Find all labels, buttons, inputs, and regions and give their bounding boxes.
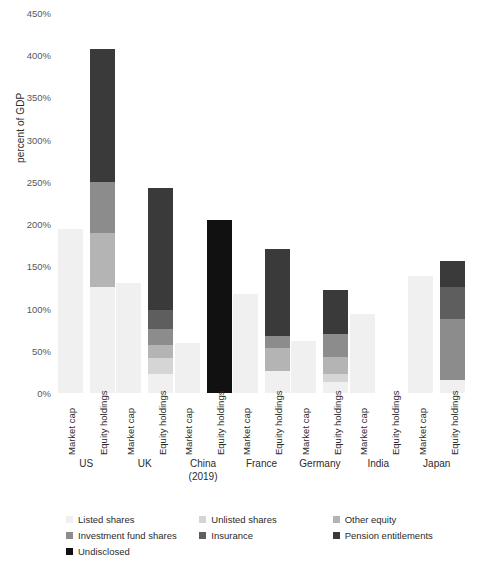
bar-segment[interactable] [90, 233, 115, 288]
y-axis-tick-label: 350% [5, 92, 51, 103]
category-label: Japan [408, 458, 466, 483]
y-axis-tick-label: 150% [5, 261, 51, 272]
legend-swatch-icon [333, 532, 340, 539]
bar-segment[interactable] [207, 220, 232, 393]
bar-segment[interactable] [440, 287, 465, 319]
bar-segment[interactable] [291, 341, 316, 393]
bar-segment[interactable] [323, 374, 348, 382]
bar-type-label: Equity holdings [273, 391, 284, 455]
bar-segment[interactable] [265, 336, 290, 348]
bar-segment[interactable] [116, 283, 141, 393]
bar-slot [175, 13, 200, 393]
category-label-line: France [232, 458, 290, 471]
bar-segment[interactable] [350, 314, 375, 393]
bar-segment[interactable] [265, 348, 290, 371]
bar-type-label: Equity holdings [157, 391, 168, 455]
bar-type-label-slot: Market cap [175, 395, 200, 457]
category-label: US [57, 458, 115, 483]
legend-item-label: Unlisted shares [211, 512, 276, 527]
bar-segment[interactable] [440, 319, 465, 380]
bar-segment[interactable] [148, 310, 173, 329]
bar-segment[interactable] [323, 290, 348, 334]
bar-segment[interactable] [323, 334, 348, 357]
bar-type-label-group: Market capEquity holdings [349, 395, 407, 457]
legend-item[interactable]: Investment fund shares [66, 528, 199, 543]
bar-type-label: Market cap [417, 408, 428, 455]
bar-type-label-slot: Equity holdings [90, 395, 115, 457]
stacked-bar[interactable] [207, 220, 232, 393]
bar-type-label-slot: Equity holdings [207, 395, 232, 457]
bar-segment[interactable] [233, 294, 258, 393]
legend-item-label: Listed shares [78, 512, 135, 527]
bar-segment[interactable] [175, 343, 200, 393]
stacked-bar[interactable] [291, 341, 316, 393]
bar-type-labels: Market capEquity holdingsMarket capEquit… [57, 395, 466, 457]
legend-item[interactable]: Listed shares [66, 512, 199, 527]
bar-type-label-group: Market capEquity holdings [232, 395, 290, 457]
bar-segment[interactable] [90, 49, 115, 182]
bar-segment[interactable] [440, 261, 465, 286]
bar-type-label: Market cap [183, 408, 194, 455]
stacked-bar[interactable] [58, 229, 83, 393]
bar-type-label-group: Market capEquity holdings [115, 395, 173, 457]
y-axis-tick-label: 250% [5, 176, 51, 187]
stacked-bar[interactable] [233, 294, 258, 393]
bar-segment[interactable] [148, 358, 173, 374]
bar-segment[interactable] [90, 287, 115, 393]
bar-type-label-group: Market capEquity holdings [57, 395, 115, 457]
bar-slot [323, 13, 348, 393]
bar-slot [116, 13, 141, 393]
y-axis-title: percent of GDP [15, 3, 26, 163]
bar-segment[interactable] [148, 329, 173, 345]
legend-item-label: Other equity [345, 512, 397, 527]
y-axis-tick-label: 200% [5, 219, 51, 230]
bar-type-label: Market cap [358, 408, 369, 455]
bar-segment[interactable] [148, 345, 173, 359]
legend-swatch-icon [66, 548, 73, 555]
bar-group [174, 13, 232, 393]
bar-segment[interactable] [408, 276, 433, 393]
stacked-bar[interactable] [323, 290, 348, 393]
bar-segment[interactable] [148, 188, 173, 310]
bar-type-label-slot: Market cap [408, 395, 433, 457]
legend-item[interactable]: Undisclosed [66, 544, 199, 559]
legend-item-label: Insurance [211, 528, 253, 543]
legend-item[interactable]: Other equity [333, 512, 466, 527]
stacked-bar[interactable] [265, 249, 290, 393]
bar-type-label: Equity holdings [215, 391, 226, 455]
legend-swatch-icon [66, 532, 73, 539]
bar-type-label-group: Market capEquity holdings [291, 395, 349, 457]
legend-swatch-icon [333, 516, 340, 523]
legend-item[interactable]: Insurance [199, 528, 332, 543]
bar-type-label-slot: Market cap [350, 395, 375, 457]
bar-slot [90, 13, 115, 393]
stacked-bar[interactable] [440, 261, 465, 393]
legend-item[interactable]: Pension entitlements [333, 528, 466, 543]
bar-type-label-slot: Equity holdings [382, 395, 407, 457]
bar-group [57, 13, 115, 393]
stacked-bar-chart: percent of GDP 0%50%100%150%200%250%300%… [0, 0, 480, 567]
stacked-bar[interactable] [408, 276, 433, 393]
category-label-line: (2019) [174, 471, 232, 484]
bar-slot [408, 13, 433, 393]
legend-swatch-icon [66, 516, 73, 523]
bar-type-label: Market cap [300, 408, 311, 455]
bar-segment[interactable] [58, 229, 83, 393]
y-axis-tick-label: 50% [5, 345, 51, 356]
bar-segment[interactable] [90, 182, 115, 233]
category-label: Germany [291, 458, 349, 483]
stacked-bar[interactable] [175, 343, 200, 393]
stacked-bar[interactable] [90, 48, 115, 393]
legend-item[interactable]: Unlisted shares [199, 512, 332, 527]
stacked-bar[interactable] [148, 188, 173, 393]
stacked-bar[interactable] [116, 283, 141, 393]
bar-segment[interactable] [265, 249, 290, 336]
category-labels: USUKChina(2019)FranceGermanyIndiaJapan [57, 458, 466, 483]
bar-segment[interactable] [323, 357, 348, 374]
stacked-bar[interactable] [350, 314, 375, 393]
category-label: France [232, 458, 290, 483]
bar-slot [148, 13, 173, 393]
category-label-line: Japan [408, 458, 466, 471]
category-label-line: India [349, 458, 407, 471]
bar-type-label-slot: Equity holdings [148, 395, 173, 457]
